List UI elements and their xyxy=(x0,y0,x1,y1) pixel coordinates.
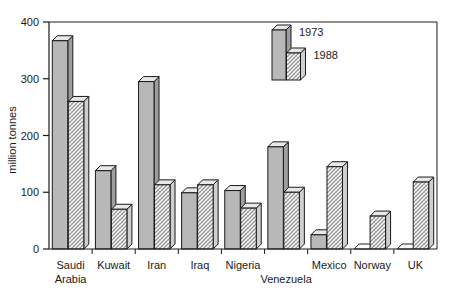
bar-1988 xyxy=(284,187,305,249)
bar-1988 xyxy=(155,180,176,249)
y-tick-label: 100 xyxy=(21,186,39,198)
bar-1988 xyxy=(68,96,89,249)
x-category-label: Mexico xyxy=(312,259,347,271)
x-category-label: UK xyxy=(408,259,424,271)
x-category-label: Iran xyxy=(147,259,166,271)
x-category-label: Nigeria xyxy=(226,259,262,271)
bar-1988 xyxy=(111,204,132,249)
y-tick-label: 0 xyxy=(33,243,39,255)
chart-canvas: 0100200300400 SaudiArabiaKuwaitIranIraqN… xyxy=(0,0,454,302)
y-axis-title: million tonnes xyxy=(6,106,18,174)
x-category-label: Saudi xyxy=(56,259,84,271)
x-category-label-line2: Venezuela xyxy=(260,273,312,285)
x-category-label-line2: Arabia xyxy=(55,273,88,285)
bar-1988 xyxy=(198,180,219,249)
y-tick-label: 400 xyxy=(21,16,39,28)
x-category-label: Kuwait xyxy=(97,259,130,271)
legend-label-1988: 1988 xyxy=(314,49,338,61)
y-tick-label: 200 xyxy=(21,130,39,142)
legend-label-1973: 1973 xyxy=(299,26,323,38)
y-tick-label: 300 xyxy=(21,73,39,85)
legend-key-1988 xyxy=(287,48,306,80)
bar-1988 xyxy=(327,162,348,249)
x-category-label: Norway xyxy=(354,259,392,271)
bar-1988 xyxy=(370,211,391,249)
bar-chart: 0100200300400 SaudiArabiaKuwaitIranIraqN… xyxy=(0,0,454,302)
bar-1988 xyxy=(241,203,262,249)
bar-1988 xyxy=(413,177,434,249)
x-category-label: Iraq xyxy=(190,259,209,271)
